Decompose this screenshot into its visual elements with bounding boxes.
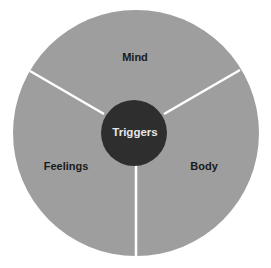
segment-label-mind: Mind: [122, 51, 148, 63]
center-label-triggers: Triggers: [112, 126, 157, 138]
segment-label-body: Body: [190, 160, 218, 172]
segment-label-feelings: Feelings: [44, 160, 89, 172]
